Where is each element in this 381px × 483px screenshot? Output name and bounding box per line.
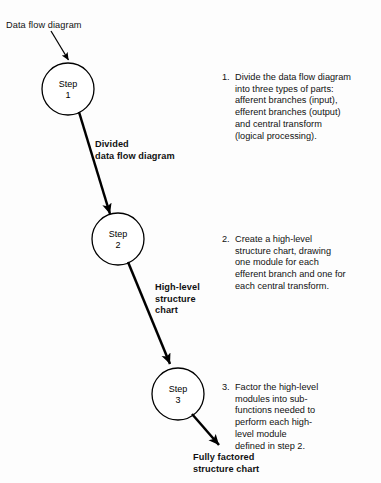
step-item-2-text: Create a high-level structure chart, dra… — [235, 234, 346, 293]
step-item-1: 1. Divide the data flow diagram into thr… — [222, 72, 351, 142]
step-item-3: 3. Factor the high-level modules into su… — [222, 382, 318, 452]
node-step3-line1: Step — [169, 384, 188, 394]
node-step2-line1: Step — [109, 229, 128, 239]
node-step1 — [42, 63, 94, 115]
step-item-3-text: Factor the high-level modules into sub- … — [235, 382, 318, 452]
label-divided-dataflow: Divided data flow diagram — [95, 139, 175, 162]
label-fully-factored-structure-chart: Fully factored structure chart — [193, 452, 259, 475]
node-step2 — [92, 213, 144, 265]
diagram-page: Step 1 Step 2 Step 3 Data flow diagram D… — [0, 0, 381, 483]
step-item-3-number: 3. — [222, 382, 235, 394]
arrow-input-to-step1 — [51, 31, 69, 60]
node-step2-line2: 2 — [115, 240, 120, 250]
step-item-1-number: 1. — [222, 72, 235, 84]
label-input-dataflow: Data flow diagram — [6, 20, 82, 32]
node-step3-line2: 3 — [175, 395, 180, 405]
step-item-2: 2. Create a high-level structure chart, … — [222, 234, 346, 293]
arrow-step1-to-step2 — [79, 112, 110, 214]
node-step1-line2: 1 — [65, 90, 70, 100]
node-step3 — [152, 368, 204, 420]
label-highlevel-structure-chart: High-level structure chart — [155, 282, 200, 317]
step-item-2-number: 2. — [222, 234, 235, 246]
node-step1-line1: Step — [59, 79, 78, 89]
step-item-1-text: Divide the data flow diagram into three … — [235, 72, 351, 142]
arrow-step3-to-output — [192, 414, 219, 445]
